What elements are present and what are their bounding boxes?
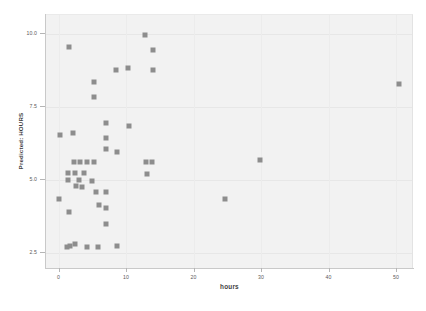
data-point-marker — [126, 123, 131, 128]
scatter-plot-figure: 2.55.07.510.0 01020304050 Predicted: HOU… — [0, 0, 426, 311]
y-tick-label: 5.0 — [29, 176, 37, 182]
x-axis-line — [45, 268, 414, 269]
y-tick-mark — [40, 252, 45, 253]
x-tick-label: 20 — [191, 274, 197, 280]
data-point-marker — [84, 160, 89, 165]
data-point-marker — [78, 160, 83, 165]
data-point-marker — [258, 157, 263, 162]
y-tick-mark — [40, 33, 45, 34]
data-point-marker — [113, 68, 118, 73]
x-tick-mark — [126, 268, 127, 272]
gridline-vertical — [329, 15, 330, 268]
data-point-marker — [71, 131, 76, 136]
gridline-horizontal — [45, 253, 412, 254]
data-point-marker — [103, 221, 108, 226]
data-point-marker — [72, 242, 77, 247]
data-point-marker — [80, 185, 85, 190]
data-point-marker — [115, 150, 120, 155]
data-point-marker — [103, 205, 108, 210]
y-tick-mark — [40, 179, 45, 180]
data-point-marker — [126, 65, 131, 70]
data-point-marker — [65, 177, 70, 182]
data-point-marker — [396, 81, 401, 86]
gridline-horizontal — [45, 107, 412, 108]
x-tick-mark — [194, 268, 195, 272]
data-point-marker — [92, 80, 97, 85]
data-point-marker — [151, 48, 156, 53]
y-tick-label: 10.0 — [27, 30, 38, 36]
y-axis-line — [45, 14, 46, 269]
gridline-vertical — [126, 15, 127, 268]
x-tick-label: 0 — [57, 274, 60, 280]
data-point-marker — [114, 243, 119, 248]
data-point-marker — [150, 160, 155, 165]
data-point-marker — [92, 94, 97, 99]
data-point-marker — [96, 245, 101, 250]
data-point-marker — [222, 196, 227, 201]
gridline-horizontal — [45, 180, 412, 181]
y-tick-mark — [40, 106, 45, 107]
data-point-marker — [103, 189, 108, 194]
gridline-vertical — [261, 15, 262, 268]
gridline-vertical — [59, 15, 60, 268]
x-tick-label: 50 — [393, 274, 399, 280]
data-point-marker — [103, 135, 108, 140]
data-point-marker — [72, 170, 77, 175]
y-axis-label: Predicted: HOURS — [14, 14, 28, 268]
data-point-marker — [103, 121, 108, 126]
data-point-marker — [65, 170, 70, 175]
x-tick-label: 40 — [326, 274, 332, 280]
data-point-marker — [93, 189, 98, 194]
data-point-marker — [66, 45, 71, 50]
x-axis-label: hours — [45, 283, 414, 290]
x-tick-mark — [396, 268, 397, 272]
data-point-marker — [67, 210, 72, 215]
y-tick-label: 7.5 — [29, 103, 37, 109]
x-tick-mark — [261, 268, 262, 272]
data-point-marker — [74, 183, 79, 188]
y-tick-label: 2.5 — [29, 249, 37, 255]
data-point-marker — [84, 245, 89, 250]
data-point-marker — [89, 179, 94, 184]
data-point-marker — [57, 132, 62, 137]
x-tick-label: 10 — [123, 274, 129, 280]
data-point-marker — [144, 160, 149, 165]
data-point-marker — [151, 68, 156, 73]
x-tick-mark — [329, 268, 330, 272]
data-point-marker — [57, 196, 62, 201]
data-point-marker — [76, 177, 81, 182]
gridline-vertical — [194, 15, 195, 268]
data-point-marker — [82, 170, 87, 175]
x-tick-label: 30 — [258, 274, 264, 280]
gridline-horizontal — [45, 34, 412, 35]
x-tick-mark — [59, 268, 60, 272]
data-point-marker — [72, 160, 77, 165]
data-point-marker — [97, 202, 102, 207]
data-point-marker — [91, 160, 96, 165]
data-point-marker — [144, 172, 149, 177]
data-point-marker — [142, 33, 147, 38]
gridline-vertical — [396, 15, 397, 268]
data-point-marker — [103, 147, 108, 152]
plot-area — [45, 14, 413, 268]
